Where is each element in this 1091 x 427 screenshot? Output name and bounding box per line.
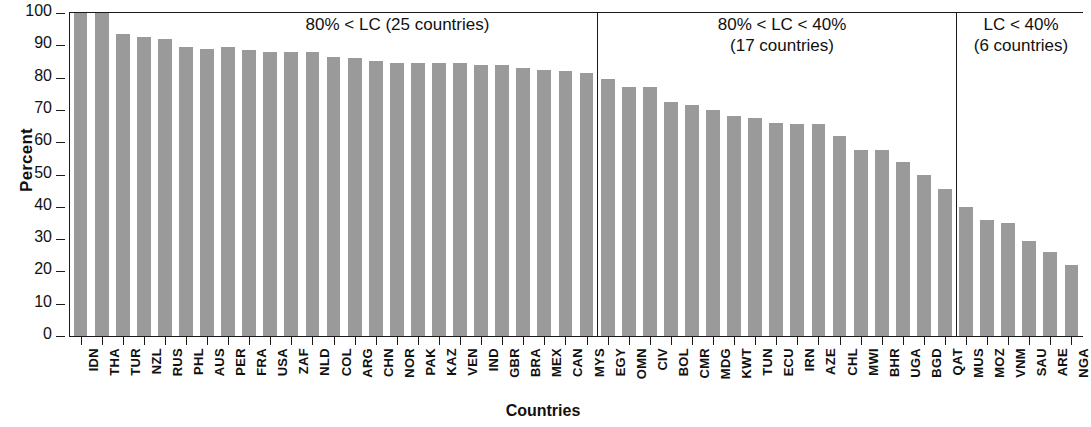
bar <box>116 34 130 336</box>
x-axis-tick-mark <box>861 337 862 345</box>
x-axis-tick-mark <box>755 337 756 345</box>
x-axis-tick-mark <box>608 337 609 345</box>
x-axis-tick-label: BRA <box>528 348 543 377</box>
y-axis-tick: 0 <box>0 336 70 337</box>
x-axis-tick-mark <box>797 337 798 345</box>
y-axis-tick-mark <box>56 207 65 208</box>
x-axis-tick-mark <box>144 337 145 345</box>
group-annotation-1-line1: 80% < LC (25 countries) <box>190 14 605 35</box>
bar <box>622 87 636 336</box>
x-axis-tick-label: IRN <box>802 348 817 371</box>
bar <box>875 150 889 336</box>
x-axis-tick-mark <box>102 337 103 345</box>
x-axis-tick-mark <box>692 337 693 345</box>
x-axis-tick-label: IND <box>486 348 501 371</box>
x-axis-tick-label: ARG <box>360 348 375 378</box>
bar <box>896 162 910 336</box>
x-axis-tick-mark <box>544 337 545 345</box>
x-axis-tick-label: MYS <box>592 348 607 377</box>
group-annotation-2-line2: (17 countries) <box>606 35 958 56</box>
bar <box>474 65 488 336</box>
bar <box>748 118 762 336</box>
x-axis-tick-label: BGD <box>929 348 944 378</box>
x-axis-tick-mark <box>1050 337 1051 345</box>
y-axis-tick: 10 <box>0 304 70 305</box>
x-axis-tick-mark <box>523 337 524 345</box>
x-axis-tick-label: BHR <box>887 348 902 377</box>
bar <box>769 123 783 336</box>
y-axis-tick-mark <box>56 271 65 272</box>
x-axis-tick-mark <box>249 337 250 345</box>
x-axis-tick-label: BOL <box>676 348 691 376</box>
x-axis-tick-mark <box>903 337 904 345</box>
y-axis-tick: 30 <box>0 239 70 240</box>
y-axis-tick-label: 10 <box>10 293 52 311</box>
bar <box>917 175 931 337</box>
y-axis-tick: 90 <box>0 45 70 46</box>
y-axis-tick-mark <box>56 45 65 46</box>
bar <box>580 73 594 336</box>
x-axis-tick-mark <box>924 337 925 345</box>
bar <box>327 57 341 336</box>
x-axis-tick-label: PER <box>233 348 248 376</box>
x-axis-tick-label: USA <box>275 348 290 376</box>
group-divider-line <box>597 12 598 337</box>
y-axis-tick-mark <box>56 336 65 337</box>
x-axis-tick-label: SAU <box>1034 348 1049 376</box>
x-axis-tick-label: CIV <box>655 348 670 371</box>
x-axis-title: Countries <box>0 402 1086 420</box>
bar <box>664 102 678 336</box>
bar <box>306 52 320 336</box>
bar <box>706 110 720 336</box>
x-axis-tick-label: MOZ <box>992 348 1007 378</box>
bar <box>812 124 826 336</box>
y-axis-tick-label: 20 <box>10 260 52 278</box>
x-axis-tick-label: TUR <box>128 348 143 376</box>
x-axis-tick-label: CHL <box>845 348 860 376</box>
x-axis-tick-label: ECU <box>781 348 796 376</box>
y-axis-tick-label: 80 <box>10 67 52 85</box>
y-axis-tick-label: 100 <box>10 2 52 20</box>
x-axis-tick-mark <box>587 337 588 345</box>
group-annotation-3-line2: (6 countries) <box>959 35 1083 56</box>
x-axis-tick-mark <box>945 337 946 345</box>
x-axis-tick-mark <box>460 337 461 345</box>
y-axis-tick-label: 50 <box>10 164 52 182</box>
bar <box>854 150 868 336</box>
x-axis-tick-mark <box>312 337 313 345</box>
y-axis-tick: 60 <box>0 142 70 143</box>
bar <box>495 65 509 336</box>
bar <box>833 136 847 336</box>
y-axis-tick: 20 <box>0 271 70 272</box>
bar <box>95 13 109 336</box>
x-axis-tick-label: FRA <box>254 348 269 376</box>
y-axis-tick-mark <box>56 110 65 111</box>
x-axis-tick-label: NZL <box>149 348 164 374</box>
x-axis-tick-mark <box>418 337 419 345</box>
x-axis-tick-mark <box>734 337 735 345</box>
bar <box>790 124 804 336</box>
x-axis-tick-label: GBR <box>507 348 522 378</box>
x-axis-tick-label: ZAF <box>296 348 311 374</box>
x-axis-tick-label: RUS <box>170 348 185 376</box>
x-axis-tick-mark <box>966 337 967 345</box>
x-axis-tick-label: QAT <box>950 348 965 375</box>
bar <box>411 63 425 336</box>
x-axis-tick-label: IDN <box>86 348 101 371</box>
y-axis-tick-label: 40 <box>10 196 52 214</box>
x-axis-tick-label: MWI <box>866 348 881 376</box>
y-axis-tick-mark <box>56 78 65 79</box>
x-axis-tick-label: CMR <box>697 348 712 379</box>
bar <box>369 61 383 336</box>
y-axis-tick-label: 60 <box>10 131 52 149</box>
x-axis-tick-mark <box>228 337 229 345</box>
y-axis-tick-mark <box>56 175 65 176</box>
x-axis-tick-label: KAZ <box>444 348 459 376</box>
group-annotation-2-line1: 80% < LC < 40% <box>606 14 958 35</box>
x-axis-tick-mark <box>123 337 124 345</box>
bar <box>74 13 88 336</box>
x-axis-tick-mark <box>502 337 503 345</box>
x-axis-tick-mark <box>650 337 651 345</box>
x-axis-tick-mark <box>355 337 356 345</box>
